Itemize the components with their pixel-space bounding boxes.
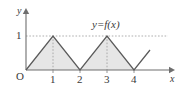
y-axis-arrow-icon [23, 8, 29, 14]
function-label: y=f(x) [92, 19, 120, 30]
plot-canvas [0, 0, 182, 92]
area-under-curve [26, 36, 134, 70]
y-tick-label-1: 1 [16, 30, 22, 41]
y-axis-label: y [17, 6, 21, 16]
graph-figure: y x O 1 1 2 3 4 y=f(x) [0, 0, 182, 92]
x-tick-label-4: 4 [131, 74, 137, 85]
x-tick-label-2: 2 [77, 74, 83, 85]
origin-label: O [16, 71, 24, 82]
x-axis-label: x [170, 74, 174, 84]
x-tick-label-3: 3 [104, 74, 110, 85]
x-tick-label-1: 1 [50, 74, 56, 85]
